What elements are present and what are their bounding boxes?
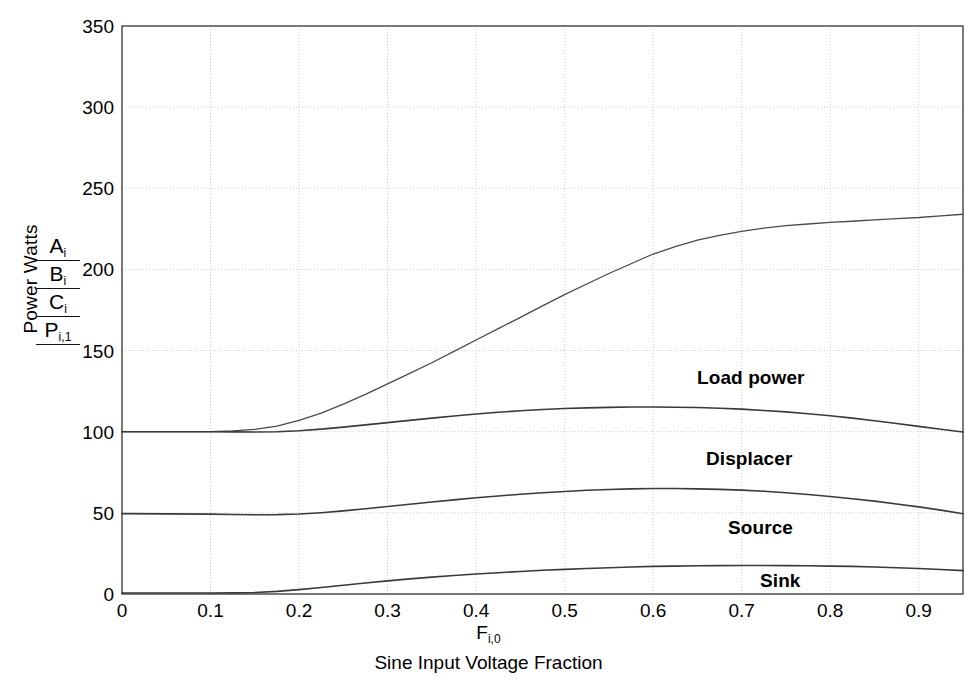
plot-frame: [122, 26, 963, 594]
annotation-source: Source: [728, 517, 793, 539]
plot-area: [0, 0, 977, 685]
annotation-sink: Sink: [760, 570, 801, 592]
annotation-displacer: Displacer: [706, 448, 792, 470]
annotation-load-power: Load power: [697, 367, 805, 389]
series-line-sink: [122, 565, 963, 593]
chart-figure: Power Watts AiBiCiPi,1 05010015020025030…: [0, 0, 977, 685]
series-line-source: [122, 489, 963, 515]
series-line-displacer: [122, 407, 963, 432]
x-axis-symbol-label: Fi,0: [0, 622, 977, 644]
series-line-load-power: [122, 214, 963, 431]
x-axis-description-label: Sine Input Voltage Fraction: [0, 652, 977, 674]
